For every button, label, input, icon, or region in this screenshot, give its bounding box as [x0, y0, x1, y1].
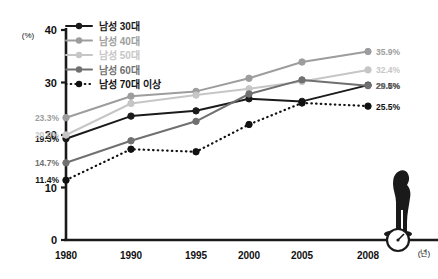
series-end-label: 29.4%: [376, 81, 401, 91]
legend-marker-swatch: [76, 66, 82, 72]
y-axis-unit-label: (%): [22, 31, 35, 40]
series-marker: [193, 118, 199, 124]
series-marker: [365, 67, 371, 73]
legend-label: 남성 50대: [99, 49, 140, 61]
series-marker: [63, 132, 69, 138]
person-on-scale-icon: [384, 170, 412, 251]
x-axis-tick: 1990: [120, 250, 143, 261]
series-marker: [128, 146, 134, 152]
series-start-label: 11.4%: [35, 175, 59, 185]
x-axis-unit-label: (년): [418, 248, 431, 258]
series-start-label: 20.0%: [35, 130, 60, 140]
series-marker: [365, 48, 371, 54]
series-marker: [193, 108, 199, 114]
series-marker: [299, 100, 305, 106]
legend-marker-swatch: [76, 52, 82, 58]
legend-marker-swatch: [76, 81, 82, 87]
series-marker: [299, 59, 305, 65]
series-end-label: 32.4%: [376, 65, 401, 75]
y-axis-tick: 30: [45, 77, 57, 89]
series-marker: [246, 91, 252, 97]
chart-value-labels: 19.3%29.5%23.3%35.9%20.0%32.4%14.7%29.4%…: [35, 47, 401, 185]
legend-label: 남성 40대: [99, 35, 140, 47]
series-marker: [128, 100, 134, 106]
series-end-label: 25.5%: [376, 102, 401, 112]
y-axis-tick: 0: [51, 234, 57, 246]
series-marker: [365, 103, 371, 109]
series-marker: [128, 93, 134, 99]
series-marker: [246, 121, 252, 127]
x-axis-tick: 1980: [55, 250, 78, 261]
series-marker: [246, 75, 252, 81]
series-marker: [299, 77, 305, 83]
x-axis-tick: 1995: [185, 250, 208, 261]
x-axis-tick-labels: 198019901995200020052008: [55, 250, 380, 261]
series-start-label: 14.7%: [35, 158, 60, 168]
chart-container: (%) 010203040 198019901995200020052008 (…: [0, 0, 438, 279]
series-marker: [63, 177, 69, 183]
x-axis-tick: 2008: [357, 250, 380, 261]
series-marker: [63, 160, 69, 166]
legend-marker-swatch: [76, 23, 82, 29]
series-marker: [193, 92, 199, 98]
legend-label: 남성 30대: [99, 20, 140, 32]
series-marker: [128, 138, 134, 144]
series-start-label: 23.3%: [35, 113, 60, 123]
series-marker: [365, 82, 371, 88]
series-end-label: 35.9%: [376, 47, 401, 57]
series-marker: [63, 114, 69, 120]
y-axis-tick: 40: [45, 24, 57, 36]
legend-label: 남성 60대: [99, 64, 140, 76]
series-line: [66, 103, 368, 180]
chart-legend: 남성 30대남성 40대남성 50대남성 60대남성 70대 이상: [66, 20, 162, 90]
legend-marker-swatch: [76, 37, 82, 43]
legend-label: 남성 70대 이상: [99, 78, 162, 90]
line-chart: (%) 010203040 198019901995200020052008 (…: [0, 0, 438, 279]
x-axis-tick: 2000: [238, 250, 261, 261]
x-axis-tick: 2005: [291, 250, 314, 261]
series-marker: [193, 149, 199, 155]
series-marker: [128, 113, 134, 119]
